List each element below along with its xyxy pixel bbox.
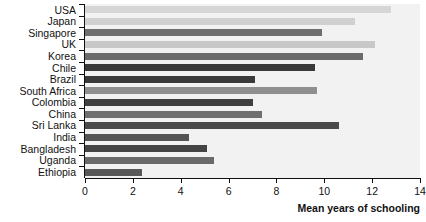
bar <box>85 87 317 94</box>
x-axis-tick <box>229 178 230 183</box>
x-axis-tick <box>276 178 277 183</box>
category-label: Ethiopia <box>0 166 80 178</box>
y-axis-tick <box>79 143 84 155</box>
bar <box>85 134 189 141</box>
bar <box>85 41 375 48</box>
x-axis-tick-labels: 02468101214 <box>85 184 421 198</box>
category-label: Sri Lanka <box>0 120 80 132</box>
category-label: UK <box>0 39 80 51</box>
bar <box>85 157 214 164</box>
y-axis-tick <box>79 74 84 86</box>
bar-row <box>85 74 420 86</box>
bar-row <box>85 132 420 144</box>
x-axis-tick-label: 4 <box>178 184 184 198</box>
x-axis-ticks <box>85 178 421 183</box>
category-axis-labels: USAJapanSingaporeUKKoreaChileBrazilSouth… <box>0 4 80 178</box>
x-axis-tick-label: 6 <box>226 184 232 198</box>
category-label: Japan <box>0 16 80 28</box>
x-axis-tick-label: 14 <box>414 184 426 198</box>
category-label: Colombia <box>0 97 80 109</box>
x-axis-tick-label: 12 <box>366 184 378 198</box>
bar <box>85 18 355 25</box>
category-label: USA <box>0 4 80 16</box>
bar <box>85 111 262 118</box>
x-axis-tick-label: 10 <box>318 184 330 198</box>
x-axis-tick-label: 8 <box>274 184 280 198</box>
y-axis-tick <box>79 97 84 109</box>
y-axis-tick <box>79 132 84 144</box>
category-label: South Africa <box>0 85 80 97</box>
bar <box>85 6 391 13</box>
bar <box>85 122 339 129</box>
category-label: China <box>0 108 80 120</box>
bar-row <box>85 155 420 167</box>
y-axis-tick <box>79 27 84 39</box>
category-label: Singapore <box>0 27 80 39</box>
y-axis-ticks <box>79 4 84 178</box>
y-axis-tick <box>79 39 84 51</box>
bar-row <box>85 120 420 132</box>
category-label: Korea <box>0 50 80 62</box>
bar <box>85 76 255 83</box>
bar-row <box>85 97 420 109</box>
x-axis-tick-label: 0 <box>82 184 88 198</box>
x-axis-tick <box>372 178 373 183</box>
category-label: Bangladesh <box>0 143 80 155</box>
x-axis-title: Mean years of schooling <box>297 202 420 214</box>
bar-row <box>85 39 420 51</box>
category-label: Brazil <box>0 74 80 86</box>
y-axis-tick <box>79 120 84 132</box>
bar-row <box>85 4 420 16</box>
x-axis-tick <box>181 178 182 183</box>
y-axis-tick <box>79 62 84 74</box>
x-axis-tick <box>133 178 134 183</box>
y-axis-tick <box>79 50 84 62</box>
x-axis-tick <box>324 178 325 183</box>
y-axis-tick <box>79 4 84 16</box>
bar <box>85 169 142 176</box>
category-label: India <box>0 132 80 144</box>
y-axis-tick <box>79 108 84 120</box>
x-axis-tick-label: 2 <box>130 184 136 198</box>
category-label: Chile <box>0 62 80 74</box>
y-axis-tick <box>79 85 84 97</box>
bar <box>85 29 322 36</box>
bar <box>85 145 207 152</box>
category-label: Uganda <box>0 155 80 167</box>
bar-row <box>85 27 420 39</box>
bar-row <box>85 143 420 155</box>
bar-row <box>85 166 420 178</box>
bar-row <box>85 16 420 28</box>
bar-row <box>85 62 420 74</box>
bar <box>85 53 363 60</box>
bar-row <box>85 85 420 97</box>
x-axis-tick <box>420 178 421 183</box>
bar <box>85 64 315 71</box>
x-axis-tick <box>85 178 86 183</box>
y-axis-tick <box>79 16 84 28</box>
bar <box>85 99 253 106</box>
y-axis-tick <box>79 155 84 167</box>
plot-area <box>85 4 420 178</box>
bar-row <box>85 108 420 120</box>
bar-row <box>85 50 420 62</box>
bar-rows <box>85 4 420 178</box>
y-axis-tick <box>79 166 84 178</box>
